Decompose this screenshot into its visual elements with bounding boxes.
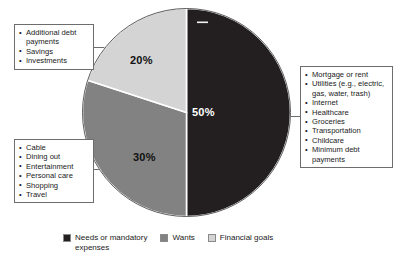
list-item: Personal care (19, 171, 89, 180)
callout-needs-list: Mortgage or rent Utilities (e.g., electr… (305, 70, 388, 164)
legend-label-needs: Needs or mandatory expenses (75, 233, 147, 253)
list-item: Shopping (19, 181, 89, 190)
list-item: Utilities (e.g., electric, gas, water, t… (305, 79, 388, 98)
legend-swatch-financial-goals (208, 234, 216, 242)
list-item: Minimum debt payments (305, 145, 388, 164)
legend-item-needs: Needs or mandatory expenses (63, 233, 147, 253)
list-item: Childcare (305, 136, 388, 145)
pie-chart-figure: 50% 30% 20% Additional debt payments Sav… (0, 0, 402, 271)
pie-label-financial-goals: 20% (130, 54, 153, 66)
list-item: Transportation (305, 126, 388, 135)
legend-item-wants: Wants (160, 233, 194, 243)
list-item: Mortgage or rent (305, 70, 388, 79)
list-item: Entertainment (19, 162, 89, 171)
callout-wants-list: Cable Dining out Entertainment Personal … (19, 143, 89, 199)
legend-item-financial-goals: Financial goals (208, 233, 273, 243)
pie-top-tick-mark (197, 22, 208, 24)
callout-needs: Mortgage or rent Utilities (e.g., electr… (300, 66, 393, 168)
list-item: Dining out (19, 152, 89, 161)
list-item: Cable (19, 143, 89, 152)
chart-legend: Needs or mandatory expenses Wants Financ… (63, 233, 383, 253)
list-item: Internet (305, 98, 388, 107)
list-item: Travel (19, 190, 89, 199)
callout-financial-goals: Additional debt payments Savings Investm… (14, 24, 94, 70)
list-item: Healthcare (305, 108, 388, 117)
legend-label-wants: Wants (172, 233, 194, 243)
list-item: Investments (19, 56, 89, 65)
pie-label-needs: 50% (192, 106, 215, 118)
list-item: Additional debt payments (19, 28, 89, 47)
legend-swatch-needs (63, 234, 71, 242)
legend-label-financial-goals: Financial goals (220, 233, 273, 243)
callout-financial-goals-list: Additional debt payments Savings Investm… (19, 28, 89, 66)
callout-wants: Cable Dining out Entertainment Personal … (14, 139, 94, 203)
list-item: Groceries (305, 117, 388, 126)
legend-swatch-wants (160, 234, 168, 242)
list-item: Savings (19, 47, 89, 56)
pie-graphic (82, 8, 291, 217)
pie-label-wants: 30% (133, 151, 156, 163)
